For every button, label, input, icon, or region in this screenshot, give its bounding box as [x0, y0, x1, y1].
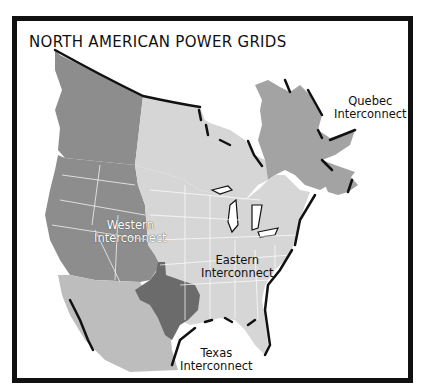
region-western-canada[interactable] [55, 50, 143, 165]
power-grid-map [0, 0, 425, 389]
label-line: Interconnect [201, 267, 274, 280]
region-maritimes[interactable] [322, 174, 358, 195]
label-line: Interconnect [94, 232, 167, 245]
label-texas-interconnect: Texas Interconnect [180, 347, 253, 373]
label-eastern-interconnect: Eastern Interconnect [201, 254, 274, 280]
label-western-interconnect: Western Interconnect [94, 219, 167, 245]
label-quebec-interconnect: Quebec Interconnect [334, 95, 407, 121]
label-line: Interconnect [180, 360, 253, 373]
label-line: Interconnect [334, 108, 407, 121]
